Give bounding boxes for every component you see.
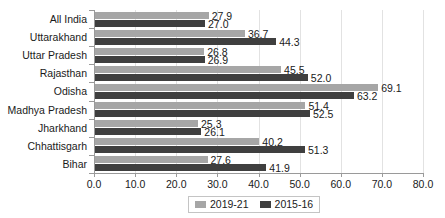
y-tick-mark <box>89 119 94 120</box>
y-tick-mark <box>89 82 94 83</box>
x-tick-mark <box>382 173 383 177</box>
x-tick-label: 60.0 <box>331 179 351 190</box>
bar-recent[interactable] <box>94 48 204 55</box>
x-tick-mark <box>135 173 136 177</box>
bar-group: Bihar27.641.9 <box>94 155 423 173</box>
bar-recent[interactable] <box>94 120 198 127</box>
bar-group: Jharkhand25.326.1 <box>94 119 423 137</box>
x-tick-label: 80.0 <box>413 179 433 190</box>
bar-older[interactable] <box>94 20 205 27</box>
x-tick-label: 40.0 <box>248 179 268 190</box>
plot-area: All India27.927.0Uttarakhand36.744.3Utta… <box>94 10 423 173</box>
bar-recent[interactable] <box>94 138 259 145</box>
bar-group: All India27.927.0 <box>94 10 423 28</box>
legend-label-older: 2015-16 <box>275 199 314 210</box>
legend-entry-older[interactable]: 2015-16 <box>260 199 314 210</box>
x-tick-label: 0.0 <box>87 179 102 190</box>
legend-swatch-older <box>260 201 271 208</box>
y-tick-mark <box>89 64 94 65</box>
y-axis-line <box>94 10 95 174</box>
x-tick-label: 30.0 <box>207 179 227 190</box>
bar-older[interactable] <box>94 38 276 45</box>
x-tick-label: 50.0 <box>289 179 309 190</box>
bar-group: Chhattisgarh40.251.3 <box>94 137 423 155</box>
y-tick-mark <box>89 46 94 47</box>
bar-older[interactable] <box>94 110 310 117</box>
category-label: Odisha <box>54 86 87 97</box>
bar-older[interactable] <box>94 56 205 63</box>
category-label: Madhya Pradesh <box>8 105 87 116</box>
y-tick-mark <box>89 137 94 138</box>
x-tick-mark <box>259 173 260 177</box>
bar-recent[interactable] <box>94 102 305 109</box>
bar-group: Odisha69.163.2 <box>94 82 423 100</box>
x-tick-mark <box>94 173 95 177</box>
bar-recent[interactable] <box>94 12 209 19</box>
bar-older[interactable] <box>94 128 201 135</box>
category-label: Jharkhand <box>38 123 87 134</box>
legend-label-recent: 2019-21 <box>210 199 249 210</box>
x-tick-mark <box>176 173 177 177</box>
bar-group: Uttarakhand36.744.3 <box>94 28 423 46</box>
bar-older[interactable] <box>94 146 305 153</box>
x-tick-label: 70.0 <box>372 179 392 190</box>
y-tick-mark <box>89 155 94 156</box>
category-label: Uttar Pradesh <box>22 50 87 61</box>
y-tick-mark <box>89 10 94 11</box>
x-tick-mark <box>341 173 342 177</box>
legend-entry-recent[interactable]: 2019-21 <box>195 199 249 210</box>
x-tick-mark <box>217 173 218 177</box>
bar-older[interactable] <box>94 164 266 171</box>
bar-group: Madhya Pradesh51.452.5 <box>94 101 423 119</box>
bar-older[interactable] <box>94 92 354 99</box>
x-tick-mark <box>300 173 301 177</box>
bar-group: Uttar Pradesh26.826.9 <box>94 46 423 64</box>
bar-recent[interactable] <box>94 156 208 163</box>
y-tick-mark <box>89 101 94 102</box>
category-label: Uttarakhand <box>30 32 87 43</box>
bar-recent[interactable] <box>94 66 281 73</box>
x-tick-label: 20.0 <box>166 179 186 190</box>
gridline <box>423 10 424 173</box>
category-label: Bihar <box>62 159 87 170</box>
y-tick-mark <box>89 28 94 29</box>
bar-group: Rajasthan45.552.0 <box>94 64 423 82</box>
bar-recent[interactable] <box>94 84 378 91</box>
bar-older[interactable] <box>94 74 308 81</box>
legend-swatch-recent <box>195 201 206 208</box>
chart-legend: 2019-21 2015-16 <box>188 196 320 213</box>
bar-recent[interactable] <box>94 30 245 37</box>
category-label: Rajasthan <box>40 68 87 79</box>
category-label: Chhattisgarh <box>27 141 87 152</box>
bar-chart: All India27.927.0Uttarakhand36.744.3Utta… <box>0 0 445 218</box>
x-tick-label: 10.0 <box>125 179 145 190</box>
bar-value-label: 69.1 <box>381 83 401 94</box>
category-label: All India <box>50 14 87 25</box>
x-tick-mark <box>423 173 424 177</box>
